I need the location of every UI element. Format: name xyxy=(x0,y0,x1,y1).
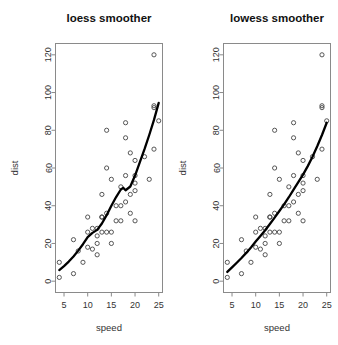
data-point xyxy=(95,241,99,245)
data-point xyxy=(152,53,156,57)
data-point xyxy=(301,189,305,193)
data-point xyxy=(301,219,305,223)
data-point xyxy=(254,215,258,219)
data-point xyxy=(147,177,151,181)
data-point xyxy=(273,230,277,234)
data-point xyxy=(123,173,127,177)
data-point xyxy=(100,215,104,219)
loess-x-tick-label: 20 xyxy=(130,300,140,310)
data-point xyxy=(263,241,267,245)
data-point xyxy=(100,192,104,196)
lowess-x-tick-label: 20 xyxy=(298,300,308,310)
data-point xyxy=(225,275,229,279)
lowess-x-tick-label: 15 xyxy=(274,300,284,310)
data-point xyxy=(105,128,109,132)
loess-y-tick-label: 80 xyxy=(44,125,54,135)
figure-container: loess smoother 020406080100120 510152025… xyxy=(0,0,338,345)
data-point xyxy=(296,192,300,196)
loess-y-tick-label: 100 xyxy=(44,85,54,100)
data-point xyxy=(301,158,305,162)
data-point xyxy=(249,260,253,264)
data-point xyxy=(254,245,258,249)
data-point xyxy=(71,238,75,242)
data-point xyxy=(114,219,118,223)
data-point xyxy=(133,158,137,162)
lowess-y-tick-label: 20 xyxy=(212,238,222,248)
data-point xyxy=(268,215,272,219)
lowess-x-axis-ticks: 510152025 xyxy=(230,293,332,310)
loess-y-tick-label: 40 xyxy=(44,201,54,211)
data-point xyxy=(301,181,305,185)
loess-smoother-curve xyxy=(59,103,158,270)
data-point xyxy=(225,260,229,264)
data-point xyxy=(128,151,132,155)
data-point xyxy=(268,192,272,196)
data-point xyxy=(133,219,137,223)
data-point xyxy=(273,166,277,170)
lowess-y-tick-label: 40 xyxy=(212,201,222,211)
loess-x-tick-label: 10 xyxy=(83,300,93,310)
data-point xyxy=(105,166,109,170)
data-point xyxy=(109,230,113,234)
lowess-y-tick-label: 80 xyxy=(212,125,222,135)
lowess-x-tick-label: 25 xyxy=(322,300,332,310)
lowess-y-tick-label: 100 xyxy=(212,85,222,100)
data-point xyxy=(123,200,127,204)
lowess-y-tick-label: 120 xyxy=(212,47,222,62)
loess-x-tick-label: 25 xyxy=(154,300,164,310)
lowess-y-axis-title: dist xyxy=(177,160,188,175)
loess-y-tick-label: 20 xyxy=(44,238,54,248)
loess-panel-title: loess smoother xyxy=(67,12,153,24)
data-point xyxy=(291,173,295,177)
data-point xyxy=(95,234,99,238)
data-point xyxy=(90,247,94,251)
data-point xyxy=(105,230,109,234)
data-point xyxy=(277,177,281,181)
data-point xyxy=(128,211,132,215)
data-point xyxy=(291,200,295,204)
loess-x-tick-label: 15 xyxy=(106,300,116,310)
data-point xyxy=(296,151,300,155)
loess-data-points xyxy=(57,53,161,280)
data-point xyxy=(152,147,156,151)
data-point xyxy=(157,119,161,123)
lowess-x-tick-label: 5 xyxy=(230,300,235,310)
data-point xyxy=(86,230,90,234)
lowess-x-axis-title: speed xyxy=(264,322,290,333)
data-point xyxy=(123,121,127,125)
data-point xyxy=(109,177,113,181)
data-point xyxy=(291,136,295,140)
data-point xyxy=(258,247,262,251)
data-point xyxy=(239,272,243,276)
data-point xyxy=(133,189,137,193)
data-point xyxy=(81,260,85,264)
data-point xyxy=(119,219,123,223)
loess-y-tick-label: 120 xyxy=(44,47,54,62)
lowess-x-tick-label: 10 xyxy=(251,300,261,310)
data-point xyxy=(90,226,94,230)
data-point xyxy=(128,192,132,196)
data-point xyxy=(263,234,267,238)
data-point xyxy=(277,241,281,245)
loess-y-tick-label: 60 xyxy=(44,163,54,173)
data-point xyxy=(119,204,123,208)
data-point xyxy=(320,147,324,151)
data-point xyxy=(282,219,286,223)
data-point xyxy=(268,230,272,234)
lowess-panel: lowess smoother 020406080100120 51015202… xyxy=(177,12,332,333)
data-point xyxy=(71,272,75,276)
loess-y-axis-ticks: 020406080100120 xyxy=(44,47,56,283)
data-point xyxy=(296,211,300,215)
data-point xyxy=(114,204,118,208)
data-point xyxy=(320,53,324,57)
loess-y-tick-label: 0 xyxy=(44,279,54,284)
data-point xyxy=(291,121,295,125)
loess-x-axis-title: speed xyxy=(96,322,122,333)
data-point xyxy=(109,241,113,245)
loess-x-axis-ticks: 510152025 xyxy=(62,293,164,310)
lowess-y-axis-ticks: 020406080100120 xyxy=(212,47,224,283)
loess-x-tick-label: 5 xyxy=(62,300,67,310)
data-point xyxy=(287,204,291,208)
data-point xyxy=(287,219,291,223)
loess-y-axis-title: dist xyxy=(9,160,20,175)
